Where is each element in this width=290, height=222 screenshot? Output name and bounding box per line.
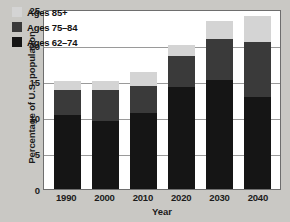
- bar-2010: [130, 72, 157, 189]
- bar-segment: [206, 39, 233, 81]
- bar-segment: [168, 45, 195, 56]
- bar-segment: [168, 87, 195, 189]
- bar-segment: [54, 81, 81, 90]
- plot-area: [43, 10, 281, 190]
- bar-segment: [92, 121, 119, 189]
- bar-segment: [168, 56, 195, 87]
- bar-segment: [130, 72, 157, 86]
- chart-figure: Percentage of U.S. population 0510152025…: [0, 0, 290, 222]
- bar-segment: [54, 115, 81, 189]
- bar-segment: [244, 97, 271, 189]
- x-axis-tick-2000: 2000: [91, 192, 118, 206]
- bar-segment: [130, 86, 157, 113]
- bar-segment: [244, 42, 271, 97]
- legend-item: Ages 85+: [12, 6, 77, 18]
- x-axis-tick-labels: 199020002010202020302040: [43, 192, 281, 206]
- bar-segment: [206, 21, 233, 38]
- y-axis-tick-5: 5: [18, 149, 40, 160]
- x-axis-tick-2040: 2040: [244, 192, 271, 206]
- legend-swatch-icon: [12, 7, 22, 17]
- bar-segment: [92, 81, 119, 90]
- legend-swatch-icon: [12, 37, 22, 47]
- y-axis-tick-0: 0: [18, 185, 40, 196]
- bar-2030: [206, 21, 233, 189]
- bar-2040: [244, 16, 271, 189]
- bar-segment: [244, 16, 271, 42]
- y-axis-tick-15: 15: [18, 77, 40, 88]
- bar-group: [44, 11, 280, 189]
- legend-item-label: Ages 62–74: [27, 37, 77, 48]
- x-axis-tick-1990: 1990: [53, 192, 80, 206]
- bar-2020: [168, 45, 195, 189]
- x-axis-tick-2030: 2030: [206, 192, 233, 206]
- legend-item: Ages 62–74: [12, 36, 77, 48]
- x-axis-tick-2010: 2010: [129, 192, 156, 206]
- legend-swatch-icon: [12, 22, 22, 32]
- legend-item-label: Ages 75–84: [27, 22, 77, 33]
- y-axis-tick-10: 10: [18, 113, 40, 124]
- x-axis-tick-2020: 2020: [168, 192, 195, 206]
- x-axis-title: Year: [43, 206, 281, 217]
- bar-1990: [54, 81, 81, 189]
- bar-segment: [92, 90, 119, 121]
- legend-item: Ages 75–84: [12, 21, 77, 33]
- bar-segment: [130, 113, 157, 189]
- bar-2000: [92, 81, 119, 189]
- chart-legend: Ages 85+Ages 75–84Ages 62–74: [12, 6, 77, 48]
- legend-item-label: Ages 85+: [27, 7, 67, 18]
- bar-segment: [206, 80, 233, 189]
- bar-segment: [54, 90, 81, 115]
